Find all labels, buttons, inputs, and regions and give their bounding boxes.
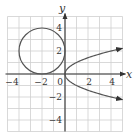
x-axis-label: x (126, 68, 133, 81)
y-tick-label: 4 (56, 23, 62, 33)
y-axis-label: y (58, 2, 66, 15)
x-tick-label: 0 (57, 77, 63, 87)
y-tick-label: −4 (49, 115, 63, 125)
y-tick-label: −2 (49, 92, 62, 102)
graph: x y −4 −2 0 2 4 4 2 −2 −4 (0, 0, 138, 138)
x-tick-label: −4 (5, 77, 19, 87)
x-tick-label: 4 (109, 77, 115, 87)
graph-svg: x y −4 −2 0 2 4 4 2 −2 −4 (0, 0, 138, 138)
x-tick-label: −2 (34, 77, 47, 87)
parabola-upper-branch (65, 48, 123, 74)
x-tick-label: 2 (86, 77, 92, 87)
curves (19, 28, 123, 100)
y-tick-label: 2 (56, 46, 62, 56)
labels: x y −4 −2 0 2 4 4 2 −2 −4 (5, 2, 133, 125)
